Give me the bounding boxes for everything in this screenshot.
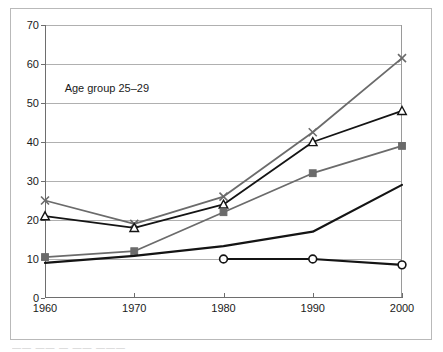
y-axis-tick-label: 50 <box>27 98 39 109</box>
x-axis-tick-label: 1980 <box>211 303 235 314</box>
chart-plot-area: 010203040506070 19601970198019902000 Age… <box>45 25 402 298</box>
y-axis-tick-label: 30 <box>27 176 39 187</box>
figure-container: 010203040506070 19601970198019902000 Age… <box>0 0 443 352</box>
marker-circle <box>309 255 317 263</box>
y-axis-tick-label: 70 <box>27 20 39 31</box>
x-axis-tick-mark <box>402 293 403 298</box>
y-axis-tick-mark <box>41 298 45 299</box>
marker-square <box>131 248 138 255</box>
footer-text-fragment: —— —— — —— ——— <box>12 345 192 351</box>
y-axis-tick-label: 10 <box>27 254 39 265</box>
x-axis-tick-label: 1970 <box>122 303 146 314</box>
series-circle <box>220 255 406 269</box>
x-axis-tick-label: 2000 <box>390 303 414 314</box>
marker-square <box>399 143 406 150</box>
x-axis-tick-label: 1990 <box>301 303 325 314</box>
marker-circle <box>398 261 406 269</box>
marker-x <box>309 128 317 136</box>
y-axis-tick-label: 20 <box>27 215 39 226</box>
y-axis-tick-label: 40 <box>27 137 39 148</box>
series-layer <box>45 25 402 298</box>
marker-square <box>220 209 227 216</box>
x-axis-tick-label: 1960 <box>33 303 57 314</box>
y-axis-tick-label: 60 <box>27 59 39 70</box>
marker-circle <box>220 255 228 263</box>
marker-square <box>42 254 49 261</box>
marker-square <box>309 170 316 177</box>
